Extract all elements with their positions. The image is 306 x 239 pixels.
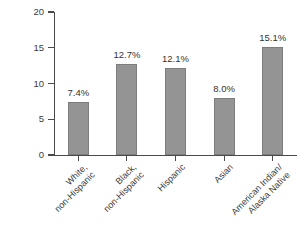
x-tick-mark [175,156,176,161]
y-tick-mark [48,119,54,120]
x-tick-mark [78,156,79,161]
y-tick-label: 0 [8,150,44,160]
bar [116,64,137,155]
y-tick-mark [48,83,54,84]
y-tick-mark [48,11,54,12]
bar [262,47,283,155]
y-tick-label: 20 [8,7,44,17]
bar-value-label: 8.0% [198,84,250,94]
bar-value-label: 7.4% [52,88,104,98]
y-tick-label: 15 [8,43,44,53]
y-axis-line [54,12,55,156]
bar [214,98,235,155]
y-tick-mark [48,154,54,155]
bar-value-label: 15.1% [247,33,299,43]
y-tick-label: 5 [8,114,44,124]
bar [165,68,186,155]
x-tick-mark [224,156,225,161]
y-tick-label: 10 [8,79,44,89]
y-tick-mark [48,47,54,48]
bar-value-label: 12.1% [150,54,202,64]
bar-chart: Percentage 20151050 7.4%12.7%12.1%8.0%15… [0,0,306,239]
bar-value-label: 12.7% [101,50,153,60]
x-tick-mark [272,156,273,161]
bar [68,102,89,155]
x-tick-mark [126,156,127,161]
